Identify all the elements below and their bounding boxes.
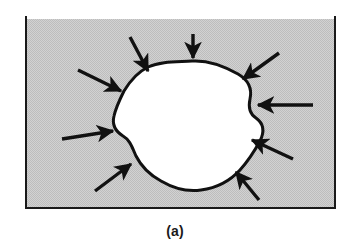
figure-illustration: (a) [0, 0, 351, 248]
figure-caption: (a) [166, 223, 184, 239]
figure-container: (a) [0, 0, 351, 248]
